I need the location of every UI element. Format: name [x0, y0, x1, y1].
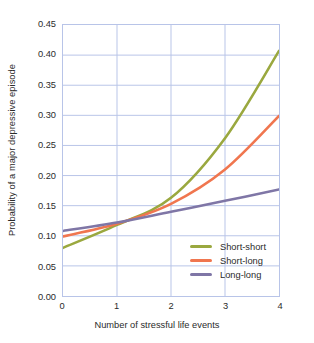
x-tick-label: 1	[102, 301, 132, 311]
legend-color-swatch	[190, 259, 212, 263]
y-tick-label: 0.40	[24, 49, 56, 59]
series-line	[63, 116, 279, 236]
legend-color-swatch	[190, 245, 212, 249]
y-tick-label: 0.25	[24, 140, 56, 150]
legend-label: Long-long	[220, 270, 261, 280]
y-tick-label: 0.35	[24, 80, 56, 90]
legend-item[interactable]: Long-long	[190, 268, 308, 281]
y-tick-label: 0.45	[24, 19, 56, 29]
x-axis-title: Number of stressful life events	[0, 320, 314, 330]
y-tick-label: 0.10	[24, 231, 56, 241]
y-tick-label: 0.15	[24, 201, 56, 211]
y-tick-label: 0.05	[24, 262, 56, 272]
chart-figure: Probability of a major depressive episod…	[0, 0, 314, 343]
legend-label: Short-short	[220, 242, 266, 252]
legend-label: Short-long	[220, 256, 263, 266]
legend-item[interactable]: Short-short	[190, 240, 308, 253]
series-line	[63, 189, 279, 231]
y-tick-label: 0.20	[24, 171, 56, 181]
y-axis-title-text: Probability of a major depressive episod…	[7, 64, 17, 236]
legend-color-swatch	[190, 273, 212, 277]
y-axis-title: Probability of a major depressive episod…	[0, 0, 24, 300]
legend-item[interactable]: Short-long	[190, 254, 308, 267]
y-tick-label: 0.30	[24, 110, 56, 120]
x-tick-label: 4	[265, 301, 295, 311]
y-axis-tick-labels: 0.000.050.100.150.200.250.300.350.400.45	[24, 0, 60, 343]
x-tick-label: 0	[47, 301, 77, 311]
x-tick-label: 3	[211, 301, 241, 311]
chart-legend: Short-shortShort-longLong-long	[190, 240, 308, 282]
x-axis-tick-labels: 01234	[62, 301, 280, 317]
x-tick-label: 2	[156, 301, 186, 311]
